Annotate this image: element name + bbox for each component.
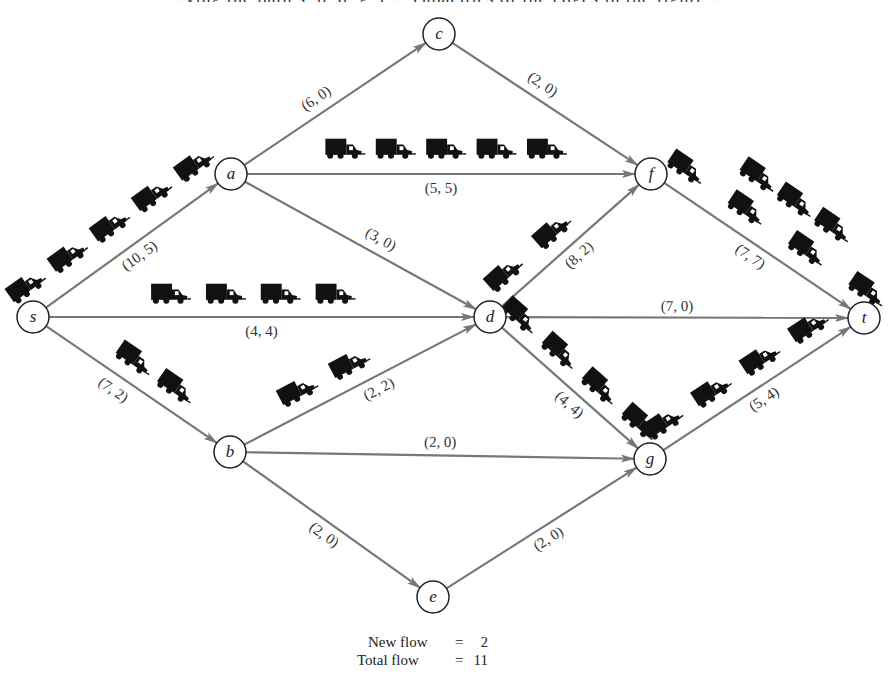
truck-icon [376,139,416,159]
truck-icon [47,235,91,275]
edge-d-f [502,185,639,307]
truck-icon [206,284,246,304]
node-b: b [214,436,246,468]
edge-label-s-b: (7, 2) [95,374,131,406]
truck-icon [531,210,574,252]
truck-icon [739,339,783,378]
edge-f-t [664,183,850,309]
truck-icon [786,230,830,269]
truck-icon [812,207,856,246]
flow-summary: New flow = 2 Total flow = 11 [357,634,488,668]
edge-label-s-d: (4, 4) [245,323,278,340]
edge-b-e [243,461,420,587]
edge-label-a-c: (6, 0) [298,82,334,114]
truck-icon [665,149,709,188]
edge-label-d-t: (7, 0) [661,298,694,315]
node-a: a [215,158,247,190]
node-s: s [17,301,49,333]
node-label: e [429,587,437,606]
truck-icon [426,139,466,159]
node-f: f [635,158,667,190]
edge-label-e-g: (2, 0) [530,523,567,555]
truck-icon [325,139,365,159]
truck-icon [775,182,819,221]
total-flow-value: 11 [474,652,488,668]
edge-label-a-f: (5, 5) [425,180,458,197]
truck-icon [690,371,734,410]
edge-label-b-d: (2, 2) [361,374,398,404]
node-d: d [474,301,506,333]
new-flow-label: New flow [368,634,428,650]
edge-b-d [244,324,476,444]
truck-icon [113,340,157,379]
truck-icon [276,372,321,408]
edge-e-g [447,468,637,589]
truck-icon [4,266,48,306]
truck-icon [316,284,356,304]
node-label: c [435,24,443,43]
node-label: d [486,307,495,326]
truck-icon [131,175,175,215]
node-label: a [227,164,236,183]
truck-icon [155,368,199,407]
edge-label-b-g: (2, 0) [424,434,457,452]
truck-icon [737,156,781,195]
truck-icon [173,144,217,184]
edge-label-g-t: (5, 4) [746,383,782,415]
truck-icon [725,189,769,228]
node-t: t [848,302,880,334]
total-flow-equals: = [455,652,463,668]
node-c: c [423,18,455,50]
edges-layer [46,43,851,589]
node-g: g [634,443,666,475]
edge-label-c-f: (2, 0) [524,68,560,100]
edge-label-b-e: (2, 0) [306,519,342,552]
truck-icon [328,345,373,381]
edge-b-g [246,452,634,458]
truck-icon [151,284,191,304]
edge-s-a [46,183,218,307]
edge-label-d-f: (8, 2) [561,238,597,272]
edge-label-d-g: (4, 4) [552,388,588,422]
truck-icon [527,139,567,159]
node-label: s [30,307,37,326]
nodes-layer: sacfdtbge [17,18,880,613]
node-label: g [646,449,655,468]
edge-label-s-a: (10, 5) [118,237,160,274]
truck-icon [787,307,831,346]
edge-label-f-t: (7, 7) [732,241,768,273]
truck-icon [477,139,517,159]
truck-icon [261,284,301,304]
node-e: e [417,581,449,613]
flow-network-diagram: (10, 5)(4, 4)(7, 2)(6, 0)(5, 5)(3, 0)(2,… [0,0,891,688]
new-flow-value: 2 [481,634,489,650]
truck-icon [483,252,526,294]
edge-d-t [506,317,848,318]
total-flow-label: Total flow [357,652,419,668]
edge-g-t [663,327,850,450]
edge-s-b [46,326,217,443]
new-flow-equals: = [455,634,463,650]
edge-d-g [502,328,638,449]
node-label: b [226,442,235,461]
truck-icon [89,205,133,245]
